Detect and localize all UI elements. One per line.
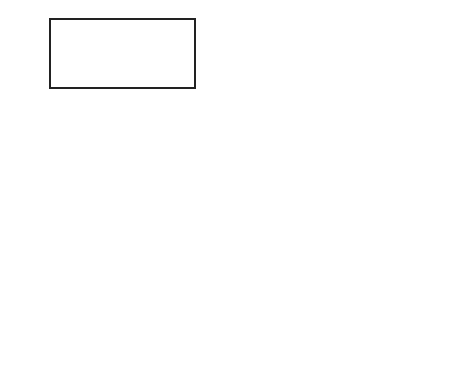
top-plot-box [50,19,195,88]
diagram-graphics [0,0,469,386]
psola-diagram [0,0,469,386]
top-plot-frame [50,19,195,88]
